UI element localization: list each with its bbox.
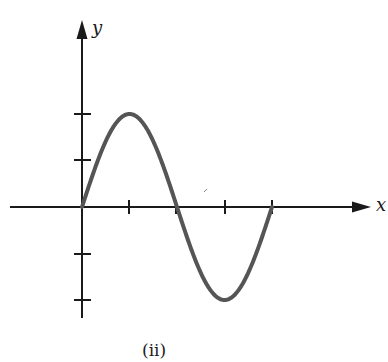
x-axis-arrow-icon — [352, 202, 371, 213]
stray-mark — [204, 189, 207, 192]
y-axis-label: y — [92, 17, 102, 38]
x-axis — [10, 202, 371, 213]
plot-canvas — [0, 0, 388, 362]
y-axis — [77, 20, 88, 318]
y-axis-arrow-icon — [77, 20, 88, 39]
figure-caption: (ii) — [142, 340, 166, 360]
x-axis-label: x — [376, 194, 386, 215]
